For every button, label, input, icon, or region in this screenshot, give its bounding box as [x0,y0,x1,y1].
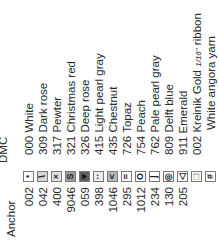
anchor-number: 398 [92,187,106,235]
triangle-left-symbol-icon: ◁ [177,171,188,182]
dmc-color: 309 Dark rose [36,83,50,155]
dmc-color: 726 Topaz [120,102,134,155]
anchor-number: 400 [50,187,64,235]
key-row: 400 × 317 Pewter [50,0,64,241]
key-row: 059 ♥ 326 Deep rose [78,0,92,241]
s-curve-symbol-icon: S [65,171,76,182]
dmc-color: 000 White [22,103,36,155]
key-row: 130 ◎ 809 Delft blue [162,0,176,241]
anchor-number: 9046 [64,187,78,235]
square-symbol-icon: □ [191,171,202,182]
less-than-symbol-icon: < [107,171,118,182]
backslash-symbol-icon: \ [37,171,48,182]
anchor-number: 042 [36,187,50,235]
key-row: 042 \ 309 Dark rose [36,0,50,241]
anchor-number: 130 [162,187,176,235]
dmc-color-suffix: ribbon [191,13,203,48]
dmc-color: 435 Chestnut [106,87,120,155]
header-row: Anchor DMC [4,0,18,241]
anchor-number: 295 [120,187,134,235]
key-row: □ 002 Kreinik Gold 1/16" ribbon [190,0,204,241]
dmc-color: 415 Light pearl gray [92,53,106,155]
anchor-header: Anchor [4,189,18,237]
dmc-color: 754 Peach [134,100,148,155]
anchor-number: 1046 [106,187,120,235]
key-row: # White angora yarn [204,0,218,241]
heart-symbol-icon: ♥ [79,171,90,182]
hash-symbol-icon: # [205,171,216,182]
dmc-color: 317 Pewter [50,97,64,155]
key-row: 234 ⌋ 762 Pale pearl gray [148,0,162,241]
anchor-number: 205 [176,187,190,235]
cross-symbol-icon: × [51,171,62,182]
dmc-color: 809 Delft blue [162,84,176,155]
equals-symbol-icon: = [121,171,132,182]
anchor-number: 002 [22,187,36,235]
key-row: 1046 < 435 Chestnut [106,0,120,241]
dmc-color-name: 002 Kreinik Gold [191,70,203,155]
key-row: 205 ◁ 911 Emerald [176,0,190,241]
dmc-color: 762 Pale pearl gray [148,55,162,155]
ribbon-size-fraction: 1/16" [194,48,203,66]
dmc-header: DMC [0,137,10,163]
key-row: 295 = 726 Topaz [120,0,134,241]
key-row: 002 • 000 White [22,0,36,241]
key-row: 9046 S 321 Christmas red [64,0,78,241]
corner-symbol-icon: ⌋ [149,171,160,182]
dmc-color: 326 Deep rose [78,80,92,155]
dmc-color: 321 Christmas red [64,61,78,155]
anchor-number: 1012 [134,187,148,235]
dot-symbol-icon: • [23,171,34,182]
anchor-number: 059 [78,187,92,235]
anchor-number: 234 [148,187,162,235]
color-key: Anchor DMC 002 • 000 White 042 \ 309 Dar… [0,0,219,241]
ring-symbol-icon: O [135,171,146,182]
dmc-color: 911 Emerald [176,91,190,155]
bullseye-symbol-icon: ◎ [163,171,174,182]
key-row: 1012 O 754 Peach [134,0,148,241]
two-dots-symbol-icon: ·· [93,171,104,182]
key-row: 398 ·· 415 Light pearl gray [92,0,106,241]
dmc-color-continued: White angora yarn [204,36,218,130]
